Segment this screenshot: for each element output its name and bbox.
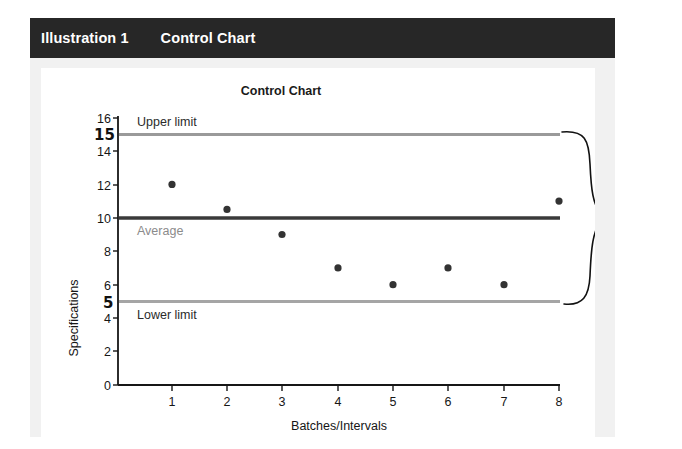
x-tick-1: 1 [169,395,176,409]
data-points [168,181,562,288]
y-tick-8: 8 [104,245,111,259]
x-tick-8: 8 [556,395,563,409]
average-label: Average [137,224,183,238]
data-point-6 [444,264,451,271]
control-chart-plot: Specifications 16 14 12 10 8 6 4 2 0 [41,68,595,437]
y-tick-12: 12 [97,179,111,193]
handwritten-5-annotation: 5 [103,294,113,312]
y-axis-title: Specifications [67,279,81,356]
header-title: Control Chart [161,30,256,46]
illustration-label: Illustration 1 [41,30,129,46]
handwritten-15-annotation: 15 [94,126,115,144]
lower-limit-label: Lower limit [137,308,197,322]
upper-limit-label: Upper limit [137,115,197,129]
data-point-5 [389,281,396,288]
y-tick-14: 14 [97,145,111,159]
data-point-7 [500,281,507,288]
chart-card: Control Chart Specifications 16 14 12 10… [41,68,595,437]
screenshot-root: Illustration 1 Control Chart Control Cha… [0,0,682,449]
y-tick-2: 2 [104,345,111,359]
data-point-2 [223,206,230,213]
header-band: Illustration 1 Control Chart [30,18,615,58]
x-tick-2: 2 [224,395,231,409]
x-tick-labels: 1 2 3 4 5 6 7 8 [169,395,563,409]
y-tick-6: 6 [104,279,111,293]
x-tick-6: 6 [445,395,452,409]
x-tick-5: 5 [390,395,397,409]
handwritten-brace [562,132,595,305]
data-point-8 [555,198,562,205]
data-point-3 [278,231,285,238]
x-axis-title: Batches/Intervals [291,419,387,433]
y-tick-10: 10 [97,212,111,226]
x-tick-4: 4 [335,395,342,409]
y-tick-0: 0 [104,379,111,393]
data-point-4 [334,264,341,271]
y-tick-labels: 16 14 12 10 8 6 4 2 0 [97,112,111,393]
x-tick-7: 7 [501,395,508,409]
x-tick-3: 3 [279,395,286,409]
y-tick-4: 4 [104,312,111,326]
data-point-1 [168,181,175,188]
y-tick-16: 16 [97,112,111,126]
